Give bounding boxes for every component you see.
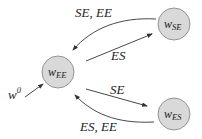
edge-label-se-ee: SE, EE	[75, 5, 112, 20]
node-w-ee: wEE	[42, 56, 74, 88]
edge-se-to-ee	[73, 19, 156, 50]
node-w-se: wSE	[158, 8, 190, 40]
edge-label-se: SE	[110, 82, 125, 97]
state-diagram: SE, EE ES SE ES, EE w0 wEE wSE wES	[0, 0, 202, 139]
initial-arrow	[25, 84, 43, 97]
edge-label-es-ee: ES, EE	[79, 119, 117, 134]
node-w-es: wES	[158, 98, 190, 130]
initial-label: w0	[8, 85, 22, 102]
edge-label-es: ES	[110, 48, 126, 63]
